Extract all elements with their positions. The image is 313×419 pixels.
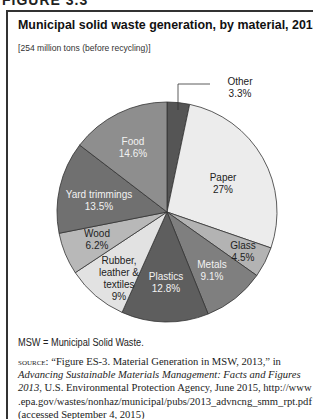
source-text-1: “Figure ES-3. Material Generation in MSW…	[49, 356, 281, 367]
label-food-pct: 14.6%	[119, 148, 147, 159]
label-wood-pct: 6.2%	[86, 240, 109, 251]
label-rubber-line2: leather &	[99, 267, 139, 278]
source-text-2: , U.S. Environmental Protection Agency, …	[18, 382, 312, 419]
label-food-name: Food	[122, 136, 145, 147]
label-metals-pct: 9.1%	[201, 271, 224, 282]
label-plastics-name: Plastics	[149, 271, 183, 282]
label-rubber-pct: 9%	[112, 291, 127, 302]
label-other-pct: 3.3%	[229, 88, 252, 99]
label-yard-name: Yard trimmings	[66, 189, 133, 200]
label-plastics-pct: 12.8%	[152, 283, 180, 294]
label-glass-name: Glass	[230, 240, 256, 251]
label-paper-pct: 27%	[213, 184, 233, 195]
label-metals-name: Metals	[197, 259, 226, 270]
label-rubber-line1: Rubber,	[101, 255, 136, 266]
source-citation: source: “Figure ES-3. Material Generatio…	[18, 355, 313, 419]
label-other-name: Other	[227, 76, 253, 87]
label-yard-pct: 13.5%	[85, 201, 113, 212]
abbreviation-note: MSW = Municipal Solid Waste.	[18, 337, 144, 348]
label-wood-name: Wood	[84, 228, 110, 239]
source-prefix: source:	[18, 356, 49, 367]
label-paper-name: Paper	[210, 172, 237, 183]
label-rubber-line3: textiles	[103, 279, 134, 290]
label-glass-pct: 4.5%	[232, 252, 255, 263]
